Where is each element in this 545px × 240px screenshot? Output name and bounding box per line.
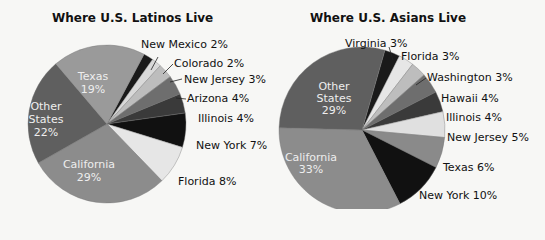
label-texas-asian: Texas 6% (443, 161, 494, 174)
left-other-pct: 22% (34, 126, 58, 139)
asians-pie (279, 47, 445, 209)
label-colorado: Colorado 2% (174, 57, 244, 70)
label-hawaii: Hawaii 4% (441, 92, 499, 105)
left-other-line1: Other (30, 100, 62, 113)
left-california-name: California (63, 158, 115, 171)
right-california-pct: 33% (299, 163, 323, 176)
label-virginia: Virginia 3% (345, 37, 407, 50)
label-florida: Florida 8% (178, 175, 236, 188)
label-illinois: Illinois 4% (198, 112, 254, 125)
left-texas-name: Texas (77, 70, 109, 83)
label-florida-asian: Florida 3% (401, 50, 459, 63)
label-arizona: Arizona 4% (187, 92, 249, 105)
right-other-pct: 29% (322, 104, 346, 117)
label-new-mexico: New Mexico 2% (141, 38, 228, 51)
label-new-york: New York 7% (196, 139, 267, 152)
label-new-jersey-asian: New Jersey 5% (447, 131, 529, 144)
left-california-pct: 29% (77, 171, 101, 184)
label-new-jersey: New Jersey 3% (184, 73, 266, 86)
label-washington: Washington 3% (427, 71, 513, 84)
left-texas-pct: 19% (81, 83, 105, 96)
label-illinois-asian: Illinois 4% (446, 111, 502, 124)
label-new-york-asian: New York 10% (419, 189, 497, 202)
left-other-line2: States (29, 113, 64, 126)
